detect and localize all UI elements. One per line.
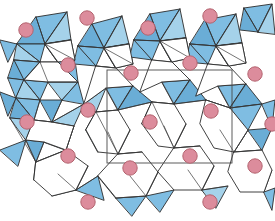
cation-sphere bbox=[80, 11, 94, 25]
cation-sphere bbox=[248, 159, 262, 173]
cation-sphere bbox=[204, 104, 218, 118]
cation-sphere bbox=[265, 117, 275, 131]
cation-sphere bbox=[61, 149, 75, 163]
cation-sphere bbox=[183, 56, 197, 70]
cation-sphere bbox=[203, 9, 217, 23]
crystal-structure-figure bbox=[0, 0, 275, 221]
cation-sphere bbox=[124, 66, 138, 80]
cation-sphere bbox=[183, 149, 197, 163]
cation-sphere bbox=[19, 23, 33, 37]
cation-sphere bbox=[81, 103, 95, 117]
cation-sphere bbox=[143, 115, 157, 129]
cation-sphere bbox=[20, 115, 34, 129]
cation-sphere bbox=[123, 161, 137, 175]
cation-sphere bbox=[248, 67, 262, 81]
cation-sphere bbox=[81, 195, 95, 209]
cation-sphere bbox=[61, 58, 75, 72]
cation-sphere bbox=[141, 21, 155, 35]
cation-sphere bbox=[203, 195, 217, 209]
structure-canvas bbox=[0, 0, 275, 221]
